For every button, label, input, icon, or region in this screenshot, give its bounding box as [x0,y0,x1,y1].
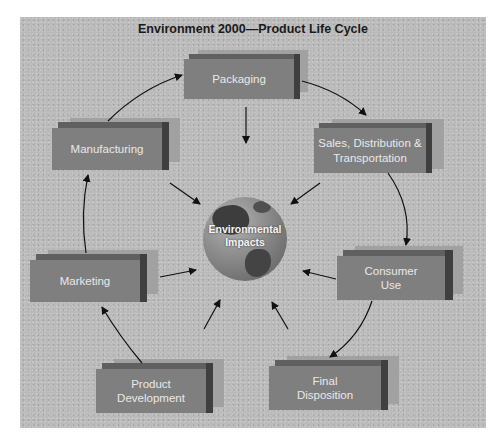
arrow-final-impact [272,302,288,329]
diagram-panel: Environment 2000—Product Life Cycle Pack… [20,17,486,428]
arrow-consumer-impact [303,271,336,279]
arrows-layer [20,17,486,428]
arrow-development-impact [204,300,220,329]
arrow-consumer-to-final [330,301,372,357]
arrow-sales-impact [291,183,320,204]
arrow-manufacturing-to-packaging [108,75,182,121]
arrow-development-to-marketing [102,307,142,363]
arrow-sales-to-consumer [388,173,407,245]
arrow-packaging-to-sales [302,81,366,115]
arrow-manufacturing-impact [170,183,200,204]
arrow-marketing-impact [160,270,196,277]
arrow-marketing-to-manufacturing [83,175,88,253]
